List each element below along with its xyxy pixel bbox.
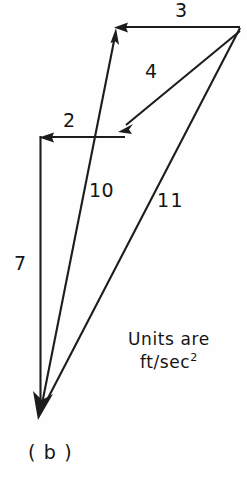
- vector-4: [118, 31, 240, 134]
- vector-4-arrowhead: [118, 124, 133, 134]
- units-line-1: Units are: [128, 328, 210, 351]
- vector-label-4: 4: [145, 62, 158, 81]
- figure-container: 3 4 2 7 10 11 Units are ft/sec2 ( b ): [0, 0, 247, 482]
- units-base: ft/sec: [140, 352, 190, 372]
- units-line-2: ft/sec2: [128, 351, 210, 374]
- vector-3: [114, 23, 240, 33]
- figure-caption: ( b ): [28, 443, 73, 462]
- units-annotation: Units are ft/sec2: [128, 328, 210, 374]
- vector-10-shaft: [40, 36, 115, 414]
- vector-label-11: 11: [157, 191, 184, 210]
- vector-diagram: [0, 0, 247, 482]
- vector-10: [40, 28, 119, 414]
- units-exponent: 2: [190, 351, 198, 364]
- vector-label-3: 3: [175, 1, 188, 20]
- vector-2: [39, 133, 125, 143]
- vector-label-10: 10: [89, 181, 114, 200]
- vector-label-7: 7: [14, 254, 27, 273]
- vector-label-2: 2: [63, 111, 76, 130]
- vector-4-shaft: [126, 31, 240, 125]
